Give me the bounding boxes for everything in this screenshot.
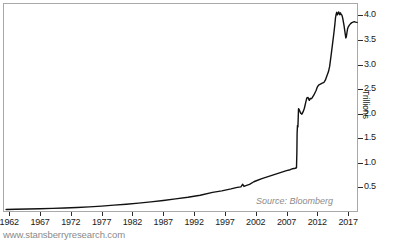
x-axis-tick-label: 1977 xyxy=(92,217,111,227)
x-axis-tick xyxy=(71,212,72,216)
x-axis-tick xyxy=(194,212,195,216)
x-axis-tick xyxy=(9,212,10,216)
source-note: Source: Bloomberg xyxy=(256,196,333,206)
series-line-total-assets xyxy=(6,12,357,210)
x-axis-tick xyxy=(287,212,288,216)
x-axis-tick-label: 1987 xyxy=(154,217,173,227)
x-axis-tick-label: 1962 xyxy=(0,217,19,227)
x-axis-tick xyxy=(317,212,318,216)
x-axis-tick-label: 2002 xyxy=(246,217,265,227)
chart-container: 0.51.01.52.02.53.03.54.0 Trillions 19621… xyxy=(0,0,396,242)
x-axis-tick xyxy=(256,212,257,216)
x-axis-tick-label: 1967 xyxy=(30,217,49,227)
x-axis-tick-label: 2012 xyxy=(308,217,327,227)
x-axis: 1962196719721977198219871992199720022007… xyxy=(3,212,358,230)
x-axis-tick-label: 2017 xyxy=(338,217,357,227)
x-axis-tick-label: 1997 xyxy=(215,217,234,227)
x-axis-tick xyxy=(132,212,133,216)
site-watermark: www.stansberryresearch.com xyxy=(3,229,125,240)
x-axis-tick xyxy=(40,212,41,216)
x-axis-tick-label: 1992 xyxy=(184,217,203,227)
x-axis-tick xyxy=(102,212,103,216)
x-axis-tick-label: 2007 xyxy=(277,217,296,227)
x-axis-tick-label: 1972 xyxy=(61,217,80,227)
y-axis-title: Trillions xyxy=(360,0,372,209)
x-axis-tick xyxy=(348,212,349,216)
x-axis-tick xyxy=(225,212,226,216)
plot-data-layer xyxy=(3,3,358,212)
x-axis-tick-label: 1982 xyxy=(123,217,142,227)
x-axis-tick xyxy=(163,212,164,216)
